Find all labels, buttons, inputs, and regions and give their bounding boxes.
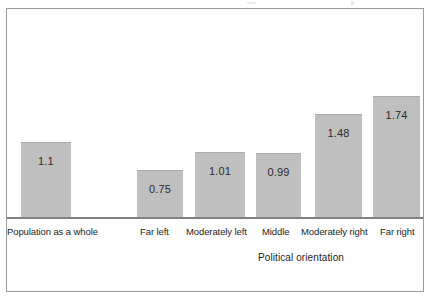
bar-value-label: 0.99: [256, 166, 301, 178]
bar-value-label: 1.74: [373, 109, 420, 121]
x-axis-tick-label-moderately-left: Moderately left: [186, 226, 247, 237]
bar-value-label: 1.1: [21, 155, 71, 167]
x-axis-tick-label-moderately-right: Moderately right: [301, 226, 368, 237]
x-axis-tick-label-middle: Middle: [262, 226, 289, 237]
bar-moderately-left: [195, 152, 245, 218]
bar-value-label: 1.48: [315, 127, 362, 139]
bar-population-as-a-whole: [21, 142, 71, 218]
x-axis-tick-label-far-left: Far left: [140, 226, 169, 237]
x-axis-tick-label-population-as-a-whole: Population as a whole: [7, 226, 98, 237]
x-axis-line: [7, 217, 423, 219]
bar-chart-figure: 1.1 0.75 1.01 0.99 1.48 1.74 Population …: [0, 0, 430, 301]
bar-value-label: 0.75: [137, 183, 183, 195]
bar-value-label: 1.01: [195, 165, 245, 177]
plot-area: 1.1 0.75 1.01 0.99 1.48 1.74 Population …: [0, 0, 430, 301]
x-axis-title: Political orientation: [0, 252, 430, 263]
x-axis-tick-label-far-right: Far right: [380, 226, 414, 237]
x-axis-title-text: Political orientation: [258, 252, 344, 263]
bar-middle: [256, 153, 301, 218]
